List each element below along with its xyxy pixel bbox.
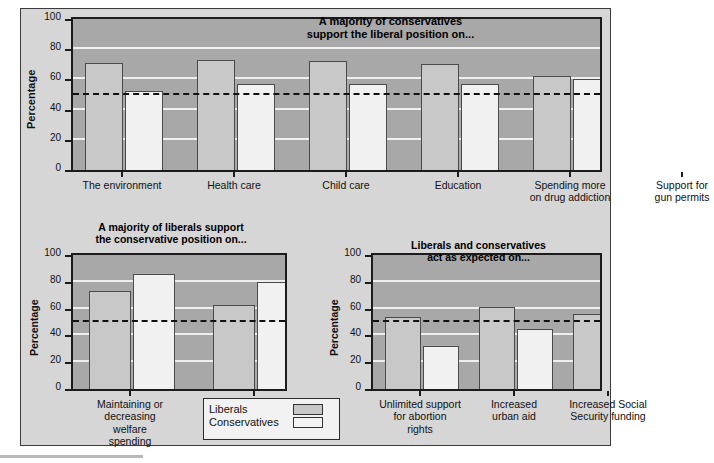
bar-lib-0 <box>385 317 421 389</box>
y-axis-label-bottom-right: Percentage <box>328 296 340 356</box>
bar-lib-0 <box>89 291 131 389</box>
y-tick-mark-20 <box>365 362 371 364</box>
y-tick-mark-60 <box>365 309 371 311</box>
x-axis-label-1: Increased urban aid <box>467 398 561 423</box>
y-tick-label-60: 60 <box>50 71 61 82</box>
x-tick-mark-2 <box>345 172 347 177</box>
bar-con-1 <box>257 282 287 389</box>
x-axis-label-0: The environment <box>66 179 178 191</box>
x-tick-marks-bottom-right <box>371 391 602 397</box>
x-axis-label-3: Education <box>402 179 514 191</box>
bar-group <box>421 19 499 170</box>
bar-group <box>309 19 387 170</box>
y-tick-label-100: 100 <box>44 247 61 258</box>
y-tick-mark-80 <box>65 49 71 51</box>
y-tick-label-20: 20 <box>350 354 361 365</box>
x-tick-mark-1 <box>253 391 255 396</box>
y-tick-label-80: 80 <box>50 273 61 284</box>
bar-lib-1 <box>197 60 235 170</box>
y-tick-mark-20 <box>65 140 71 142</box>
legend-label-liberals: Liberals <box>209 403 293 415</box>
x-axis-label-0: Unlimited support for abortion rights <box>373 398 467 435</box>
figure-card: A majority of conservatives support the … <box>20 8 611 446</box>
bar-group <box>89 255 175 389</box>
bar-lib-1 <box>213 305 255 389</box>
x-tick-mark-5 <box>681 172 683 177</box>
x-tick-mark-0 <box>129 391 131 396</box>
y-tick-label-0: 0 <box>55 162 61 173</box>
legend-swatch-liberals <box>293 404 323 415</box>
bar-con-1 <box>237 84 275 170</box>
plot-area-bottom-right <box>371 253 602 391</box>
bar-con-0 <box>423 346 459 389</box>
bar-lib-4 <box>533 76 571 170</box>
bar-group-container-top <box>73 19 600 170</box>
bar-group-container-bottom-left <box>73 255 285 389</box>
y-tick-mark-80 <box>365 282 371 284</box>
reference-line-50 <box>373 320 600 322</box>
legend-row-liberals: Liberals <box>209 403 334 415</box>
y-tick-mark-40 <box>65 335 71 337</box>
y-tick-label-100: 100 <box>44 11 61 22</box>
y-tick-label-20: 20 <box>50 131 61 142</box>
x-tick-mark-0 <box>121 172 123 177</box>
y-axis-label-top: Percentage <box>25 69 37 129</box>
x-tick-mark-0 <box>419 391 421 396</box>
plot-area-top <box>71 17 602 172</box>
reference-line-50 <box>73 320 285 322</box>
bar-con-1 <box>517 329 553 389</box>
x-tick-marks-top <box>71 172 602 178</box>
x-axis-label-1: Health care <box>178 179 290 191</box>
bar-group <box>197 19 275 170</box>
x-axis-label-2: Child care <box>290 179 402 191</box>
bar-lib-3 <box>421 64 459 170</box>
bar-con-0 <box>133 274 175 389</box>
y-tick-label-60: 60 <box>350 300 361 311</box>
bar-group <box>213 255 287 389</box>
bar-group <box>533 19 602 170</box>
x-tick-mark-1 <box>233 172 235 177</box>
y-tick-mark-60 <box>65 309 71 311</box>
bar-lib-2 <box>309 61 347 170</box>
y-axis-label-bottom-left: Percentage <box>28 296 40 356</box>
x-tick-mark-2 <box>607 391 609 396</box>
x-tick-marks-bottom-left <box>71 391 287 397</box>
chart-legend: Liberals Conservatives <box>203 398 340 440</box>
x-tick-mark-4 <box>569 172 571 177</box>
y-tick-label-80: 80 <box>50 41 61 52</box>
y-tick-mark-100 <box>65 19 71 21</box>
gridline <box>73 47 600 49</box>
x-axis-label-4: Spending more on drug addiction <box>514 179 626 204</box>
chart-panel-bottom-right: Liberals and conservatives act as expect… <box>321 221 610 447</box>
bar-lib-2 <box>573 314 602 389</box>
bottom-divider-rule <box>0 455 143 458</box>
y-tick-label-0: 0 <box>355 381 361 392</box>
y-tick-mark-20 <box>65 362 71 364</box>
reference-line-50 <box>73 93 600 95</box>
y-tick-label-80: 80 <box>350 273 361 284</box>
bar-group <box>479 255 553 389</box>
legend-swatch-conservatives <box>293 417 323 428</box>
y-tick-mark-60 <box>65 79 71 81</box>
bar-lib-0 <box>85 63 123 170</box>
y-tick-label-0: 0 <box>55 381 61 392</box>
x-axis-label-0: Maintaining or decreasing welfare spendi… <box>68 398 192 448</box>
x-tick-mark-1 <box>513 391 515 396</box>
y-tick-mark-100 <box>65 255 71 257</box>
bar-con-2 <box>349 84 387 170</box>
y-tick-mark-40 <box>65 110 71 112</box>
bar-group <box>385 255 459 389</box>
bar-con-0 <box>125 91 163 170</box>
gridline <box>73 280 285 282</box>
bar-group <box>85 19 163 170</box>
x-tick-mark-3 <box>457 172 459 177</box>
chart-panel-top: A majority of conservatives support the … <box>21 9 610 205</box>
legend-row-conservatives: Conservatives <box>209 416 334 428</box>
bar-con-3 <box>461 84 499 170</box>
bar-group-container-bottom-right <box>373 255 600 389</box>
y-tick-label-40: 40 <box>50 101 61 112</box>
y-tick-mark-40 <box>365 335 371 337</box>
y-tick-label-40: 40 <box>50 327 61 338</box>
gridline <box>373 280 600 282</box>
